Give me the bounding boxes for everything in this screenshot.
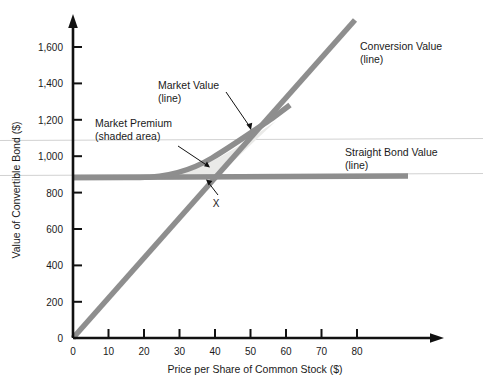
x-tick-label-70: 70 [316, 346, 328, 357]
conversion-value-label-line2: (line) [360, 53, 383, 65]
x-tick-label-10: 10 [103, 346, 115, 357]
conversion-value-label-line1: Conversion Value [360, 40, 442, 52]
y-tick-label-1400: 1,400 [38, 78, 63, 89]
x-tick-label-30: 30 [174, 346, 186, 357]
y-tick-label-400: 400 [46, 260, 63, 271]
y-axis-title: Value of Convertible Bond ($) [10, 122, 22, 259]
point-x-label: X [213, 198, 220, 209]
y-tick-label-600: 600 [46, 224, 63, 235]
x-tick-label-80: 80 [351, 346, 363, 357]
x-tick-label-60: 60 [280, 346, 292, 357]
chart-figure: 1,600 1,400 1,200 1,000 800 600 400 200 … [0, 0, 483, 383]
x-axis-title: Price per Share of Common Stock ($) [167, 363, 342, 375]
market-value-label-line2: (line) [158, 92, 181, 104]
market-value-label-line1: Market Value [158, 79, 219, 91]
market-premium-label-line1: Market Premium [95, 117, 172, 129]
market-premium-label-line2: (shaded area) [95, 130, 160, 142]
y-tick-label-200: 200 [46, 297, 63, 308]
y-tick-label-800: 800 [46, 188, 63, 199]
convertible-bond-value-chart: 1,600 1,400 1,200 1,000 800 600 400 200 … [0, 0, 483, 383]
y-tick-label-1200: 1,200 [38, 115, 63, 126]
x-tick-label-50: 50 [245, 346, 257, 357]
straight-bond-label-line2: (line) [345, 159, 368, 171]
x-tick-label-20: 20 [138, 346, 150, 357]
y-tick-label-1600: 1,600 [38, 42, 63, 53]
straight-bond-label-line1: Straight Bond Value [345, 146, 438, 158]
x-tick-label-40: 40 [209, 346, 221, 357]
y-tick-label-1000: 1,000 [38, 151, 63, 162]
y-tick-label-0: 0 [57, 333, 63, 344]
x-tick-label-0: 0 [70, 346, 76, 357]
